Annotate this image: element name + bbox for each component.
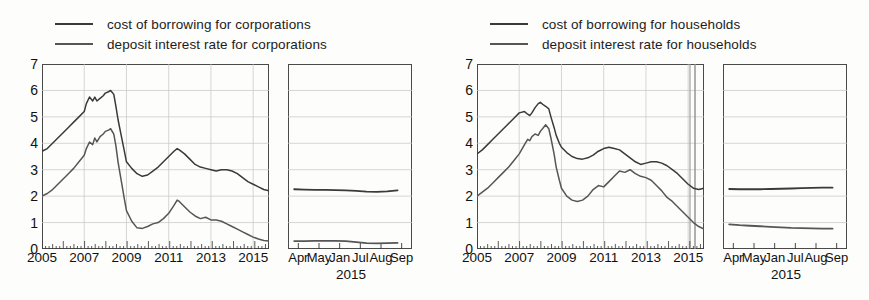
x-axis-labels: 200520072009201120132015	[42, 251, 269, 271]
inset-x-tick-label: Sep	[390, 251, 413, 264]
x-tick-label: 2005	[462, 251, 492, 265]
x-tick-label: 2013	[196, 251, 226, 265]
legend-item: deposit interest rate for households	[490, 34, 860, 54]
inset-year-label: 2015	[336, 268, 366, 282]
legend-item: cost of borrowing for households	[490, 14, 860, 34]
y-tick-label: 7	[30, 57, 38, 71]
inset-x-tick-label: Apr	[288, 251, 308, 264]
x-tick-label: 2007	[504, 251, 534, 265]
x-tick-label: 2015	[673, 251, 703, 265]
y-tick-label: 6	[30, 83, 38, 97]
panel-corporations: cost of borrowing for corporationsdeposi…	[0, 0, 434, 300]
legend-label: deposit interest rate for households	[542, 37, 756, 52]
y-tick-label: 5	[30, 110, 38, 124]
y-axis-labels: 01234567	[453, 64, 473, 249]
legend-corporations: cost of borrowing for corporationsdeposi…	[55, 14, 425, 54]
y-tick-label: 5	[465, 110, 473, 124]
panel-households: cost of borrowing for householdsdeposit …	[435, 0, 869, 300]
y-tick-label: 2	[465, 189, 473, 203]
inset-x-tick-label: Sep	[825, 251, 848, 264]
y-tick-label: 4	[30, 136, 38, 150]
main-plot-lines	[42, 64, 269, 249]
y-tick-label: 4	[465, 136, 473, 150]
inset-x-tick-label: Jul	[352, 251, 369, 264]
x-tick-label: 2007	[69, 251, 99, 265]
inset-x-axis-labels: AprMayJanJulAugSep2015	[720, 251, 852, 285]
x-tick-label: 2015	[238, 251, 268, 265]
main-plot-households	[477, 64, 704, 249]
x-tick-label: 2009	[546, 251, 576, 265]
x-tick-label: 2009	[111, 251, 141, 265]
y-tick-label: 3	[30, 163, 38, 177]
inset-x-tick-label: May	[307, 251, 332, 264]
inset-plot-lines	[288, 64, 412, 249]
inset-x-tick-label: Apr	[723, 251, 743, 264]
legend-item: cost of borrowing for corporations	[55, 14, 425, 34]
legend-households: cost of borrowing for householdsdeposit …	[490, 14, 860, 54]
legend-swatch-deposit	[55, 43, 93, 45]
legend-swatch-borrowing	[490, 23, 528, 25]
x-tick-label: 2011	[154, 251, 183, 265]
inset-plot-lines	[723, 64, 847, 249]
y-tick-label: 1	[465, 216, 473, 230]
x-axis-labels: 200520072009201120132015	[477, 251, 704, 271]
y-tick-label: 3	[465, 163, 473, 177]
y-axis-labels: 01234567	[18, 64, 38, 249]
legend-swatch-borrowing	[55, 23, 93, 25]
legend-label: cost of borrowing for corporations	[107, 17, 311, 32]
inset-plot-households	[723, 64, 847, 249]
chart-page: cost of borrowing for corporationsdeposi…	[0, 0, 869, 300]
x-tick-label: 2011	[589, 251, 618, 265]
main-plot-lines	[477, 64, 704, 249]
inset-x-tick-label: Jul	[787, 251, 804, 264]
legend-item: deposit interest rate for corporations	[55, 34, 425, 54]
x-tick-label: 2005	[27, 251, 57, 265]
inset-x-axis-labels: AprMayJanJulAugSep2015	[285, 251, 417, 285]
y-tick-label: 7	[465, 57, 473, 71]
inset-x-tick-label: Jan	[764, 251, 785, 264]
inset-x-tick-label: May	[742, 251, 767, 264]
legend-swatch-deposit	[490, 43, 528, 45]
inset-x-tick-label: Jan	[329, 251, 350, 264]
y-tick-label: 1	[30, 216, 38, 230]
legend-label: cost of borrowing for households	[542, 17, 740, 32]
main-plot-corporations	[42, 64, 269, 249]
inset-year-label: 2015	[771, 268, 801, 282]
inset-plot-corporations	[288, 64, 412, 249]
legend-label: deposit interest rate for corporations	[107, 37, 327, 52]
x-tick-label: 2013	[631, 251, 661, 265]
y-tick-label: 2	[30, 189, 38, 203]
y-tick-label: 6	[465, 83, 473, 97]
